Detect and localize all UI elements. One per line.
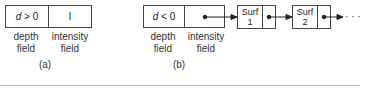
bottom-rule	[0, 85, 360, 86]
arrowhead-icon	[286, 15, 292, 20]
pointer-arrows	[0, 0, 374, 93]
ellipsis: · · ·	[345, 11, 369, 23]
arrowhead-icon	[231, 15, 237, 20]
arrowhead-icon	[337, 15, 343, 20]
